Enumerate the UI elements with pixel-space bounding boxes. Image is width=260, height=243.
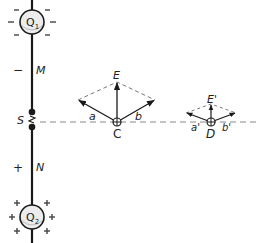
upper-sign: − <box>13 63 23 77</box>
a-label: a <box>89 110 96 123</box>
d-label: D <box>206 127 215 141</box>
lower-sign: + <box>13 161 23 175</box>
b-prime-label: b' <box>222 122 231 133</box>
point-d-marker <box>207 118 215 126</box>
switch-label: S <box>17 114 24 127</box>
b-label: b <box>135 110 142 123</box>
segment-m-label: M <box>36 64 46 77</box>
diagram-canvas: Q1 Q2 − M S + N E C a b E' D a' b' <box>0 0 260 243</box>
electric-field-diagram: Q1 Q2 − M S + N E C a b E' D a' b' <box>0 0 260 243</box>
segment-n-label: N <box>36 161 44 174</box>
vector-a <box>79 101 117 123</box>
c-label: C <box>113 127 121 141</box>
e-label: E <box>113 69 120 82</box>
switch <box>29 109 36 131</box>
e-prime-label: E' <box>207 93 217 106</box>
a-prime-label: a' <box>191 122 200 133</box>
point-c-marker <box>113 118 121 126</box>
